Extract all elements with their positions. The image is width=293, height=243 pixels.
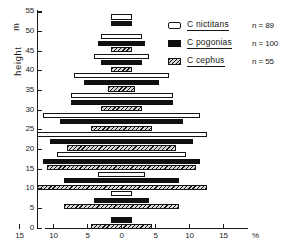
bar-pogonias-42m [101, 60, 142, 65]
y-tick-label-wrap: 40 [8, 66, 34, 75]
bar-nictitans-12m [98, 172, 146, 177]
bar-cephus-37m [108, 86, 135, 91]
x-tick-label: 15 [8, 231, 32, 240]
legend: C nictitans n = 89 C pogonias n = 100 C … [168, 16, 290, 70]
x-tick [223, 224, 224, 229]
x-tick-label: 10 [42, 231, 66, 240]
bar-cephus-17m [47, 165, 197, 170]
y-tick-label-wrap: 45 [8, 47, 34, 56]
x-tick [87, 224, 88, 229]
y-tick [38, 31, 42, 32]
y-tick [38, 228, 42, 229]
bar-pogonias-47m [98, 41, 146, 46]
bar-cephus-22m [67, 145, 176, 150]
x-tick [155, 224, 156, 229]
y-tick [38, 188, 42, 189]
y-tick-label-wrap: 15 [8, 165, 34, 174]
bar-pogonias-7m [94, 198, 148, 203]
bar-nictitans-32m [71, 93, 173, 98]
bar-nictitans-47m [101, 34, 142, 39]
nictitans-swatch-icon [168, 22, 181, 29]
y-tick [38, 110, 42, 111]
bar-nictitans-42m [94, 54, 148, 59]
bar-pogonias-27m [60, 119, 182, 124]
bar-pogonias-2m [111, 217, 131, 222]
x-tick-label: 5 [76, 231, 100, 240]
y-tick-label-wrap: 30 [8, 106, 34, 115]
y-tick-label: 10 [12, 184, 34, 192]
cephus-swatch-icon [168, 58, 181, 65]
bar-cephus-12m [37, 185, 207, 190]
y-tick [38, 90, 42, 91]
y-tick [38, 208, 42, 209]
y-tick-label: 45 [12, 47, 34, 55]
y-tick-label-wrap: 50 [8, 27, 34, 36]
x-tick-label: 15 [212, 231, 236, 240]
y-tick [38, 129, 42, 130]
y-tick-label-wrap: 25 [8, 125, 34, 134]
x-tick [121, 224, 122, 229]
x-tick-label: 0 [110, 231, 134, 240]
y-tick-label: 30 [12, 106, 34, 114]
bar-cephus-27m [91, 126, 152, 131]
chart-figure: height m % C nictitans n = 89 C pogonias… [0, 0, 293, 243]
bar-nictitans-17m [57, 152, 186, 157]
y-tick [38, 149, 42, 150]
legend-count-cephus: n = 55 [252, 57, 274, 66]
bar-pogonias-32m [71, 100, 173, 105]
y-tick [38, 51, 42, 52]
y-tick [38, 169, 42, 170]
y-tick-label: 50 [12, 27, 34, 35]
bar-pogonias-52m [111, 21, 133, 26]
bar-nictitans-52m [111, 14, 133, 19]
bar-nictitans-22m [37, 132, 207, 137]
y-tick-label: 40 [12, 66, 34, 74]
legend-label-cephus: C cephus [187, 55, 225, 67]
y-tick-label-wrap: 55 [8, 7, 34, 16]
bar-nictitans-7m [111, 191, 133, 196]
x-tick-label: 10 [178, 231, 202, 240]
bar-cephus-42m [111, 67, 131, 72]
y-tick-label: 35 [12, 86, 34, 94]
bar-cephus-7m [64, 204, 180, 209]
bar-cephus-47m [111, 47, 131, 52]
y-tick [38, 70, 42, 71]
x-tick-label: 5 [144, 231, 168, 240]
y-tick-label-wrap: 10 [8, 184, 34, 193]
legend-item-nictitans: C nictitans n = 89 [168, 16, 290, 34]
y-tick-label-wrap: 5 [8, 204, 34, 213]
x-axis-unit-label: % [252, 231, 259, 240]
legend-label-nictitans: C nictitans [187, 19, 229, 31]
pogonias-swatch-icon [168, 40, 181, 47]
x-tick [189, 224, 190, 229]
y-axis-title: height [13, 31, 23, 91]
legend-item-pogonias: C pogonias n = 100 [168, 34, 290, 52]
y-tick-label-wrap: 20 [8, 145, 34, 154]
bar-pogonias-17m [43, 159, 199, 164]
y-tick-label: 15 [12, 165, 34, 173]
y-tick-label: 5 [12, 204, 34, 212]
legend-count-nictitans: n = 89 [252, 21, 274, 30]
y-tick-label: 20 [12, 145, 34, 153]
bar-pogonias-12m [64, 178, 180, 183]
legend-item-cephus: C cephus n = 55 [168, 52, 290, 70]
y-axis-line [37, 10, 38, 229]
y-tick-label: 25 [12, 125, 34, 133]
legend-label-pogonias: C pogonias [187, 37, 232, 49]
x-tick [53, 224, 54, 229]
bar-cephus-32m [101, 106, 142, 111]
y-tick-label: 55 [12, 7, 34, 15]
y-tick-label-wrap: 35 [8, 86, 34, 95]
x-tick [19, 224, 20, 229]
bar-pogonias-22m [50, 139, 193, 144]
legend-count-pogonias: n = 100 [252, 39, 278, 48]
bar-pogonias-37m [84, 80, 159, 85]
bar-nictitans-37m [74, 73, 169, 78]
y-tick [38, 11, 42, 12]
bar-nictitans-27m [43, 113, 199, 118]
